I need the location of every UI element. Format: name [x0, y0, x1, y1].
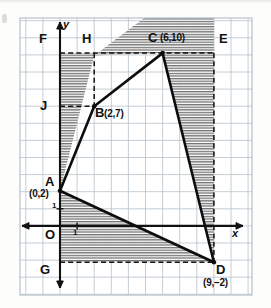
- y-axis-label: y: [63, 19, 69, 30]
- point-coord-A: (0,2): [29, 189, 49, 199]
- point-label-C: C: [148, 31, 157, 44]
- point-label-D: D: [216, 263, 225, 276]
- point-label-F: F: [39, 32, 47, 45]
- point-label-H: H: [82, 32, 91, 45]
- vertex-C-dot: [160, 51, 165, 56]
- vertex-A-dot: [58, 189, 63, 194]
- x-axis-label: x: [232, 228, 238, 239]
- y-axis-tick-label: 1: [52, 202, 56, 210]
- origin-label: O: [45, 228, 55, 241]
- point-label-J: J: [40, 99, 47, 112]
- point-coord-D: (9,–2): [203, 278, 228, 288]
- point-label-A: A: [45, 175, 54, 188]
- x-axis-tick-label: 1: [73, 229, 77, 237]
- figure-canvas: F H C (6,10) E J B (2,7) A (0,2) 1 O 1 x…: [0, 0, 271, 308]
- point-label-G: G: [40, 263, 50, 276]
- point-label-B: B: [95, 106, 104, 119]
- point-label-E: E: [219, 32, 227, 45]
- point-coord-C: (6,10): [160, 33, 185, 43]
- point-coord-B: (2,7): [104, 109, 124, 119]
